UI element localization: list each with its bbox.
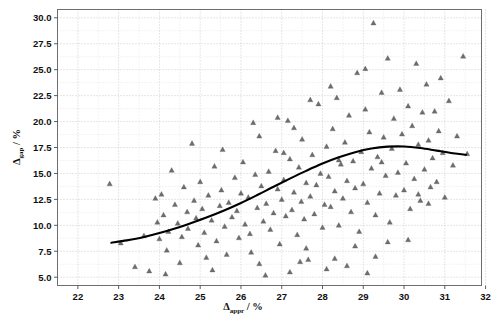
data-point-marker <box>314 182 319 187</box>
data-point-marker <box>172 202 177 207</box>
data-point-marker <box>438 75 443 80</box>
data-point-marker <box>185 226 190 231</box>
data-point-marker <box>107 181 112 186</box>
bottom-edge-strip <box>0 319 498 327</box>
data-point-marker <box>161 212 166 217</box>
y-axis-subscript: gap <box>17 147 25 158</box>
y-tick-label: 5.0 <box>38 272 51 283</box>
data-point-marker <box>320 225 325 230</box>
data-point-marker <box>164 247 169 252</box>
data-point-marker <box>332 256 337 261</box>
x-axis-tick-labels: 2223242526272829303132 <box>73 291 491 302</box>
x-tick-label: 25 <box>195 291 206 302</box>
data-point-marker <box>194 215 199 220</box>
data-point-marker <box>446 98 451 103</box>
data-point-marker <box>263 272 268 277</box>
data-point-marker <box>316 101 321 106</box>
data-point-marker <box>353 185 358 190</box>
data-point-marker <box>157 236 162 241</box>
data-point-marker <box>266 169 271 174</box>
data-point-marker <box>367 129 372 134</box>
data-point-marker <box>242 222 247 227</box>
x-tick-label: 28 <box>317 291 328 302</box>
data-point-marker <box>251 120 256 125</box>
data-point-marker <box>217 203 222 208</box>
data-point-marker <box>232 175 237 180</box>
x-tick-label: 26 <box>236 291 247 302</box>
data-point-marker <box>234 208 239 213</box>
data-point-marker <box>395 170 400 175</box>
x-tick-label: 32 <box>480 291 491 302</box>
data-point-marker <box>340 196 345 201</box>
data-point-marker <box>365 200 370 205</box>
data-point-marker <box>432 108 437 113</box>
data-point-marker <box>324 266 329 271</box>
data-point-marker <box>249 250 254 255</box>
data-point-marker <box>202 230 207 235</box>
data-point-marker <box>212 163 217 168</box>
data-point-marker <box>255 205 260 210</box>
data-point-marker <box>322 202 327 207</box>
data-point-marker <box>297 259 302 264</box>
x-tick-label: 29 <box>358 291 369 302</box>
data-point-marker <box>177 260 182 265</box>
data-point-marker <box>226 200 231 205</box>
data-point-marker <box>353 243 358 248</box>
data-point-marker <box>426 201 431 206</box>
data-point-marker <box>163 271 168 276</box>
scatter-plot-svg: 2223242526272829303132 5.07.510.012.515.… <box>0 0 498 327</box>
data-point-marker <box>371 20 376 25</box>
data-point-marker <box>191 198 196 203</box>
x-axis-subscript: appr <box>230 307 244 315</box>
data-point-marker <box>436 128 441 133</box>
data-point-marker <box>224 252 229 257</box>
data-point-marker <box>291 125 296 130</box>
y-tick-label: 7.5 <box>38 246 52 257</box>
data-point-marker <box>346 113 351 118</box>
y-tick-label: 25.0 <box>33 64 52 75</box>
x-axis-unit: / % <box>246 301 263 312</box>
data-point-marker <box>416 142 421 147</box>
y-axis-tick-labels: 5.07.510.012.515.017.520.022.525.027.530… <box>33 12 52 282</box>
data-point-marker <box>416 191 421 196</box>
data-point-marker <box>169 168 174 173</box>
data-point-marker <box>253 172 258 177</box>
data-point-marker <box>273 148 278 153</box>
data-point-marker <box>406 237 411 242</box>
y-tick-label: 27.5 <box>33 38 52 49</box>
data-point-marker <box>369 166 374 171</box>
data-point-marker <box>450 162 455 167</box>
data-point-marker <box>375 154 380 159</box>
data-point-marker <box>264 201 269 206</box>
data-point-marker <box>196 242 201 247</box>
data-point-marker <box>210 267 215 272</box>
data-point-marker <box>393 192 398 197</box>
data-point-marker <box>385 239 390 244</box>
data-point-marker <box>310 152 315 157</box>
data-point-marker <box>229 214 234 219</box>
data-point-marker <box>418 198 423 203</box>
data-point-markers <box>107 20 470 277</box>
data-point-marker <box>426 138 431 143</box>
data-point-marker <box>159 191 164 196</box>
y-tick-label: 22.5 <box>33 90 52 101</box>
data-point-marker <box>428 184 433 189</box>
svg-text:Δgap/ %: Δgap/ % <box>11 129 25 165</box>
data-point-marker <box>299 199 304 204</box>
y-axis-title: Δgap/ % <box>11 129 25 165</box>
data-point-marker <box>312 211 317 216</box>
data-point-marker <box>344 263 349 268</box>
data-point-marker <box>287 156 292 161</box>
data-point-marker <box>295 232 300 237</box>
data-point-marker <box>454 133 459 138</box>
y-tick-label: 15.0 <box>33 168 52 179</box>
data-point-marker <box>324 144 329 149</box>
data-point-marker <box>414 61 419 66</box>
data-point-marker <box>308 97 313 102</box>
data-point-marker <box>285 118 290 123</box>
data-point-marker <box>306 257 311 262</box>
data-point-marker <box>397 87 402 92</box>
data-point-marker <box>271 210 276 215</box>
data-point-marker <box>334 95 339 100</box>
data-point-marker <box>189 141 194 146</box>
